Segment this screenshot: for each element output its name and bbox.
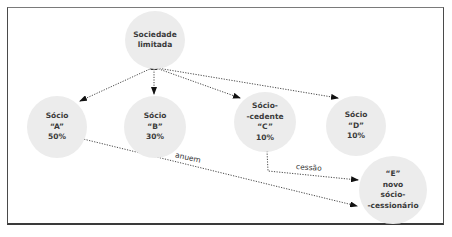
node-label: “C”	[257, 122, 273, 133]
node-socio-d: Sócio “D” 10%	[326, 96, 386, 156]
node-label: Sócio	[144, 111, 167, 122]
node-socio-b: Sócio “B” 30%	[124, 96, 186, 158]
node-socio-a: Sócio “A” 50%	[27, 96, 87, 158]
edge-root-to-d	[157, 68, 338, 98]
node-socio-cessionario-e: “E” novo sócio- -cessionário	[359, 156, 427, 224]
edge-root-to-c	[156, 68, 240, 98]
node-label: “A”	[50, 122, 64, 133]
node-label: Sociedade	[133, 30, 177, 41]
node-label: -cedente	[246, 112, 283, 123]
node-label: -cessionário	[367, 201, 418, 212]
node-label: “E”	[386, 169, 401, 180]
node-label: limitada	[138, 40, 173, 51]
edge-root-to-a	[80, 68, 152, 101]
node-label: 30%	[146, 132, 164, 143]
edge-label-cessao: cessão	[296, 162, 322, 173]
node-label: 50%	[48, 132, 66, 143]
node-sociedade-limitada: Sociedade limitada	[125, 11, 185, 69]
node-label: sócio-	[381, 190, 406, 201]
node-label: 10%	[256, 133, 274, 144]
node-label: Sócio	[345, 110, 368, 121]
node-label: novo	[383, 180, 404, 191]
node-label: Sócio	[46, 111, 69, 122]
node-label: Sócio-	[252, 101, 278, 112]
node-socio-cedente-c: Sócio- -cedente “C” 10%	[234, 92, 296, 152]
node-label: “D”	[348, 121, 364, 132]
node-label: “B”	[147, 122, 163, 133]
node-label: 10%	[347, 131, 365, 142]
